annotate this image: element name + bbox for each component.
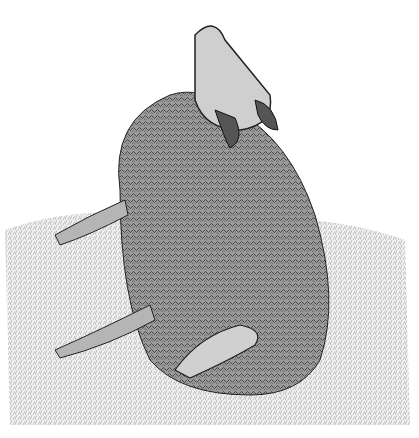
illustration	[0, 0, 419, 438]
